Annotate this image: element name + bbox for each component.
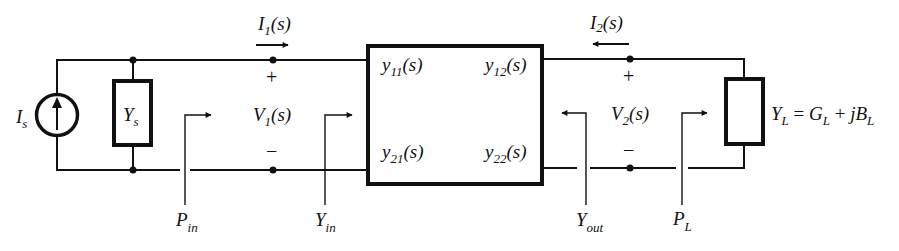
- port1-plus-sign: +: [266, 66, 277, 88]
- load-equation-label: YL = GL + jBL: [771, 103, 874, 128]
- p-in-arrow: [185, 115, 211, 205]
- port1-voltage-label: V1(s): [253, 104, 291, 129]
- y22-label: y22(s): [483, 141, 527, 166]
- y-in-label: Yin: [315, 209, 336, 235]
- port2-plus-sign: +: [623, 65, 634, 87]
- port2-current-label: I2(s): [589, 12, 623, 35]
- y-out-label: Yout: [576, 209, 604, 235]
- source-label: Is: [15, 106, 27, 131]
- source-admittance-label: Ys: [123, 104, 139, 129]
- p-load-arrow: [682, 113, 707, 205]
- p-load-label: PL: [672, 208, 692, 234]
- port2-minus-sign: −: [623, 139, 634, 161]
- y-out-arrow: [562, 113, 586, 205]
- input-wires: [57, 60, 368, 170]
- load-admittance-box: [726, 79, 763, 144]
- p-in-label: Pin: [175, 209, 198, 235]
- port1-current-label: I1(s): [257, 13, 291, 38]
- y-in-arrow: [325, 115, 352, 205]
- port2-voltage-label: V2(s): [611, 103, 649, 128]
- y12-label: y12(s): [483, 54, 527, 79]
- y21-label: y21(s): [380, 141, 424, 166]
- y11-label: y11(s): [380, 54, 423, 79]
- port1-minus-sign: −: [266, 140, 277, 162]
- current-source-icon: [37, 95, 78, 136]
- two-port-network-diagram: Is Ys I1(s) + − V1(s) Pin Yin y11(s) y12…: [0, 0, 899, 251]
